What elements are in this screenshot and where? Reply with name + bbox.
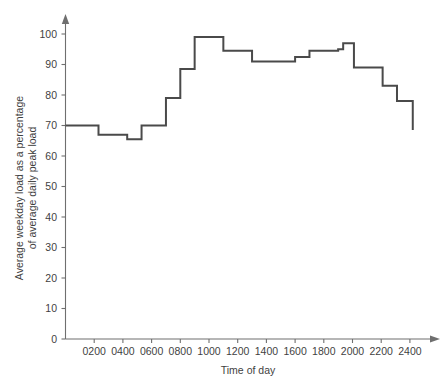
x-tick-labels: 0200 0400 0600 0800 1000 1200 1400 1600 … [83,345,422,357]
x-tick-label-1800: 1800 [312,345,336,357]
x-tick-marks [94,339,410,343]
load-profile-step-chart: 0 10 20 30 40 50 60 70 80 90 100 [0,0,447,386]
x-tick-label-0600: 0600 [140,345,164,357]
y-tick-label-30: 30 [45,241,57,253]
x-tick-label-2200: 2200 [370,345,394,357]
y-axis [62,14,69,339]
x-axis [66,335,441,342]
figure-container: 0 10 20 30 40 50 60 70 80 90 100 [0,0,447,386]
y-axis-title-line1: Average weekday load as a percentage [13,96,25,280]
x-tick-label-0200: 0200 [83,345,107,357]
x-tick-label-1600: 1600 [283,345,307,357]
y-tick-label-90: 90 [45,58,57,70]
y-tick-labels: 0 10 20 30 40 50 60 70 80 90 100 [39,28,57,345]
y-axis-title: Average weekday load as a percentage of … [13,96,38,280]
x-tick-label-0800: 0800 [169,345,193,357]
y-tick-label-0: 0 [51,333,57,345]
x-tick-label-1000: 1000 [197,345,221,357]
y-axis-arrow-icon [62,14,69,24]
x-tick-label-1400: 1400 [255,345,279,357]
y-tick-label-80: 80 [45,89,57,101]
y-tick-label-10: 10 [45,302,57,314]
y-tick-label-100: 100 [39,28,57,40]
load-step-series [66,37,413,139]
y-tick-label-40: 40 [45,211,57,223]
x-tick-label-1200: 1200 [226,345,250,357]
y-tick-label-20: 20 [45,272,57,284]
x-tick-label-0400: 0400 [111,345,135,357]
y-tick-label-50: 50 [45,180,57,192]
y-tick-marks [62,34,66,339]
y-axis-title-line2: of average daily peak load [26,127,38,250]
y-tick-label-70: 70 [45,119,57,131]
x-axis-arrow-icon [430,335,440,342]
x-tick-label-2000: 2000 [341,345,365,357]
x-axis-title: Time of day [221,364,276,376]
x-tick-label-2400: 2400 [398,345,422,357]
y-tick-label-60: 60 [45,150,57,162]
